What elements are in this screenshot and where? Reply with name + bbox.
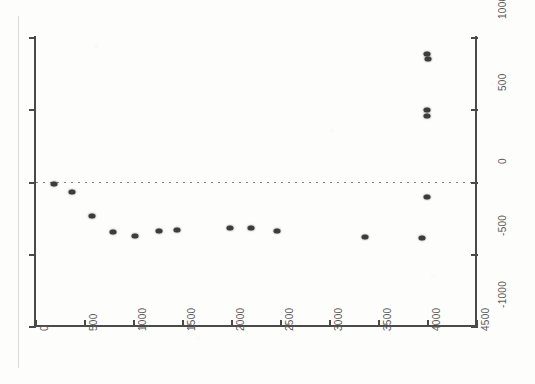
y-axis-tick	[471, 109, 478, 111]
x-axis-tick-label: 500	[88, 313, 99, 331]
plot-area	[34, 36, 477, 327]
y-axis-tick-label: 0	[497, 158, 508, 164]
y-axis-tick	[29, 182, 36, 184]
y-axis-tick-label: -500	[497, 215, 508, 236]
x-axis-tick-label: 3000	[333, 308, 344, 331]
y-axis-tick	[29, 109, 36, 111]
x-axis-tick	[182, 320, 184, 327]
data-point	[362, 235, 369, 240]
data-point	[110, 230, 117, 235]
y-axis-tick-label: 500	[497, 74, 508, 92]
x-axis-tick	[35, 320, 37, 327]
x-axis-tick	[378, 320, 380, 327]
x-axis-tick-label: 1000	[137, 308, 148, 331]
y-axis-tick	[471, 37, 478, 39]
data-point	[131, 234, 138, 239]
y-axis-tick	[471, 254, 478, 256]
x-axis-tick	[133, 320, 135, 327]
x-axis-tick	[280, 320, 282, 327]
zero-reference-line	[36, 182, 475, 183]
scatter-chart-figure: 050010001500200025003000350040004500 100…	[0, 0, 535, 384]
data-point	[419, 236, 426, 241]
data-point	[424, 56, 431, 61]
x-axis-tick-label: 3500	[382, 308, 393, 331]
data-point	[247, 226, 254, 231]
x-axis-tick	[476, 320, 478, 327]
x-axis-spine	[34, 325, 477, 327]
y-axis-tick-label: 1000	[497, 0, 508, 19]
x-axis-tick-label: 0	[39, 325, 50, 331]
data-point	[424, 107, 431, 112]
y-axis-tick-label: -1000	[497, 281, 508, 308]
page-margin-rule	[18, 16, 19, 368]
data-point	[274, 229, 281, 234]
data-point	[227, 226, 234, 231]
data-point	[156, 229, 163, 234]
x-axis-tick-label: 4500	[480, 308, 491, 331]
x-axis-tick	[329, 320, 331, 327]
x-axis-tick-label: 2000	[235, 308, 246, 331]
data-point	[88, 213, 95, 218]
x-axis-tick-label: 1500	[186, 308, 197, 331]
data-point	[424, 194, 431, 199]
data-point	[50, 181, 57, 186]
x-axis-tick-label: 4000	[431, 308, 442, 331]
data-point	[174, 228, 181, 233]
y-axis-tick	[29, 254, 36, 256]
data-point	[68, 189, 75, 194]
x-axis-tick	[84, 320, 86, 327]
y-axis-tick	[29, 37, 36, 39]
data-point	[424, 113, 431, 118]
y-axis-tick	[471, 182, 478, 184]
x-axis-tick-label: 2500	[284, 308, 295, 331]
x-axis-tick	[427, 320, 429, 327]
x-axis-tick	[231, 320, 233, 327]
